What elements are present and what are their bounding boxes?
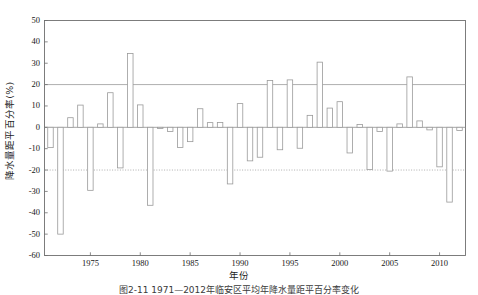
x-tick-label: 2010: [431, 259, 448, 268]
x-tick-label: 1975: [82, 259, 99, 268]
figure-caption: 图2-11 1971—2012年临安区平均年降水量距平百分率变化: [0, 283, 478, 295]
x-tick-label: 1980: [132, 259, 149, 268]
x-axis-title: 年份: [0, 268, 478, 282]
x-axis-title-text: 年份: [229, 270, 249, 281]
x-tick-label: 2000: [331, 259, 348, 268]
x-axis-tick-labels: 19751980198519901995200020052010: [0, 0, 478, 295]
x-tick-label: 1985: [182, 259, 199, 268]
x-tick-label: 1990: [232, 259, 249, 268]
x-tick-label: 2005: [381, 259, 398, 268]
x-tick-label: 1995: [281, 259, 298, 268]
figure-precipitation-anomaly: 降水量距平百分率(%) 50403020100-10-20-30-40-50-6…: [0, 0, 478, 295]
